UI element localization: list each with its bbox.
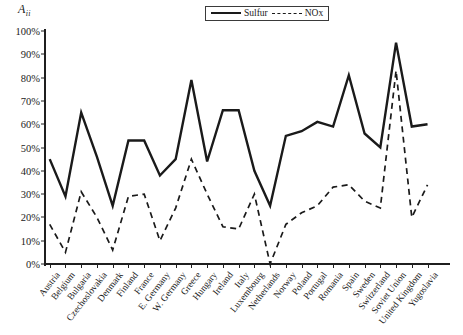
y-tick-label: 30% bbox=[0, 189, 40, 200]
y-tick-mark bbox=[41, 147, 45, 148]
x-tick-mark bbox=[317, 263, 318, 268]
y-tick-mark bbox=[41, 264, 45, 265]
emissions-line-chart: Aii Sulfur NOx 0%10%20%30%40%50%60%70%80… bbox=[0, 0, 463, 335]
y-axis-label-subscript: ii bbox=[26, 9, 31, 18]
y-tick-label: 80% bbox=[0, 72, 40, 83]
x-tick-mark bbox=[176, 263, 177, 268]
y-tick-mark bbox=[41, 31, 45, 32]
x-tick-mark bbox=[302, 263, 303, 268]
legend-solid-line-icon bbox=[211, 12, 241, 14]
x-tick-mark bbox=[270, 263, 271, 268]
x-tick-mark bbox=[239, 263, 240, 268]
legend-label-sulfur: Sulfur bbox=[244, 8, 268, 18]
legend-dashed-line-icon bbox=[272, 13, 302, 14]
y-tick-label: 20% bbox=[0, 212, 40, 223]
x-tick-mark bbox=[128, 263, 129, 268]
x-tick-mark bbox=[428, 263, 429, 268]
legend-label-nox: NOx bbox=[305, 8, 323, 18]
y-axis-label-base: A bbox=[18, 2, 26, 16]
y-tick-mark bbox=[41, 77, 45, 78]
y-tick-label: 70% bbox=[0, 95, 40, 106]
x-tick-mark bbox=[97, 263, 98, 268]
x-tick-mark bbox=[380, 263, 381, 268]
x-tick-mark bbox=[396, 263, 397, 268]
y-tick-mark bbox=[41, 217, 45, 218]
y-tick-mark bbox=[41, 194, 45, 195]
legend-item-nox: NOx bbox=[272, 8, 323, 18]
y-tick-label: 40% bbox=[0, 165, 40, 176]
series-line-nox bbox=[50, 71, 428, 264]
series-line-sulfur bbox=[50, 43, 428, 206]
x-tick-mark bbox=[50, 263, 51, 268]
legend-item-sulfur: Sulfur bbox=[211, 8, 268, 18]
y-tick-label: 60% bbox=[0, 119, 40, 130]
y-tick-label: 0% bbox=[0, 259, 40, 270]
y-axis-label: Aii bbox=[18, 2, 31, 18]
x-tick-mark bbox=[365, 263, 366, 268]
chart-legend: Sulfur NOx bbox=[205, 6, 329, 21]
x-tick-mark bbox=[333, 263, 334, 268]
x-tick-mark bbox=[207, 263, 208, 268]
plot-area bbox=[45, 31, 448, 264]
y-tick-label: 90% bbox=[0, 49, 40, 60]
x-tick-mark bbox=[412, 263, 413, 268]
x-tick-mark bbox=[286, 263, 287, 268]
x-tick-mark bbox=[160, 263, 161, 268]
x-tick-mark bbox=[113, 263, 114, 268]
x-tick-mark bbox=[65, 263, 66, 268]
x-tick-mark bbox=[349, 263, 350, 268]
y-tick-mark bbox=[41, 124, 45, 125]
x-tick-mark bbox=[223, 263, 224, 268]
x-tick-mark bbox=[191, 263, 192, 268]
x-tick-mark bbox=[81, 263, 82, 268]
y-tick-label: 10% bbox=[0, 235, 40, 246]
y-tick-mark bbox=[41, 54, 45, 55]
y-tick-label: 50% bbox=[0, 142, 40, 153]
y-tick-mark bbox=[41, 100, 45, 101]
x-tick-mark bbox=[254, 263, 255, 268]
series-svg bbox=[45, 31, 448, 264]
x-tick-mark bbox=[144, 263, 145, 268]
y-tick-mark bbox=[41, 240, 45, 241]
y-tick-mark bbox=[41, 170, 45, 171]
y-tick-label: 100% bbox=[0, 26, 40, 37]
